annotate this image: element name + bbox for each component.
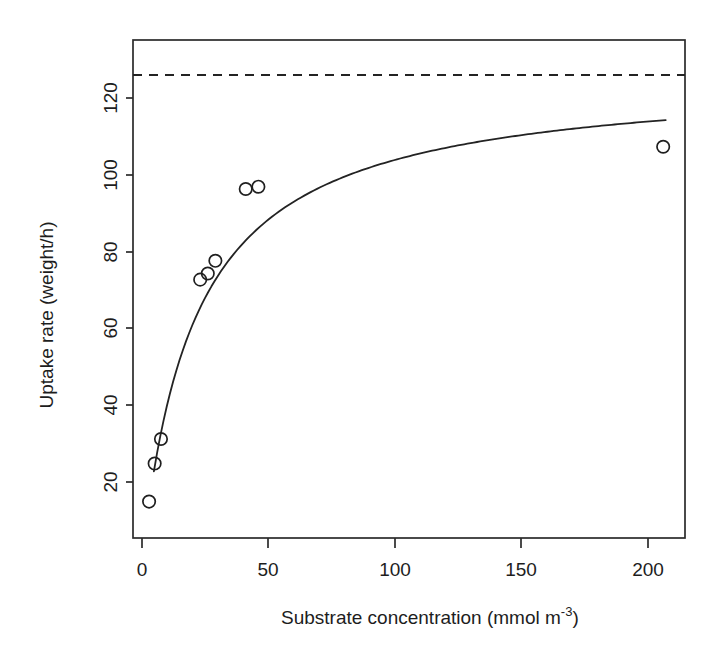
x-axis-ticks <box>142 538 648 548</box>
y-tick-label-120: 120 <box>100 82 121 114</box>
data-point <box>209 255 221 267</box>
figure-container: 20 40 60 80 100 120 Uptake rate (weight/… <box>0 0 721 659</box>
x-axis-title-close: ) <box>572 607 578 628</box>
data-point <box>240 183 252 195</box>
y-axis-title: Uptake rate (weight/h) <box>36 222 57 409</box>
y-axis-ticks <box>126 98 133 482</box>
data-points <box>143 141 670 508</box>
x-tick-label-50: 50 <box>257 559 278 580</box>
y-tick-label-20: 20 <box>100 471 121 492</box>
x-axis-tick-labels: 0 50 100 150 200 <box>137 559 664 580</box>
x-tick-label-0: 0 <box>137 559 148 580</box>
plot-panel-box <box>133 40 685 538</box>
x-axis-title-text: Substrate concentration (mmol m <box>281 607 561 628</box>
data-point <box>657 141 669 153</box>
x-tick-label-100: 100 <box>379 559 411 580</box>
y-axis-tick-labels: 20 40 60 80 100 120 <box>100 82 121 492</box>
y-tick-label-80: 80 <box>100 241 121 262</box>
y-tick-label-100: 100 <box>100 159 121 191</box>
scatter-plot-svg: 20 40 60 80 100 120 Uptake rate (weight/… <box>0 0 721 659</box>
data-point <box>143 495 155 507</box>
y-tick-label-60: 60 <box>100 317 121 338</box>
y-tick-label-40: 40 <box>100 394 121 415</box>
x-axis-title-superscript: -3 <box>561 604 573 619</box>
x-tick-label-150: 150 <box>505 559 537 580</box>
x-axis-title-main: Substrate concentration (mmol m-3) <box>281 604 579 628</box>
x-tick-label-200: 200 <box>632 559 664 580</box>
data-point <box>252 181 264 193</box>
fit-curve-path <box>154 120 666 471</box>
x-axis-title: Substrate concentration (mmol m-3) <box>281 604 579 628</box>
